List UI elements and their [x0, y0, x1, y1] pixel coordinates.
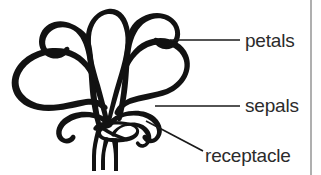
label-petals: petals	[245, 30, 295, 51]
flower-diagram-canvas: petals sepals receptacle	[0, 0, 321, 175]
flower-anatomy-figure: petals sepals receptacle	[0, 0, 321, 175]
label-sepals: sepals	[245, 95, 299, 116]
label-receptacle: receptacle	[205, 145, 291, 166]
